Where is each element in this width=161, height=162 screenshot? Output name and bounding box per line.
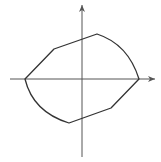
diagram-svg bbox=[0, 0, 161, 162]
diagram-canvas bbox=[0, 0, 161, 162]
